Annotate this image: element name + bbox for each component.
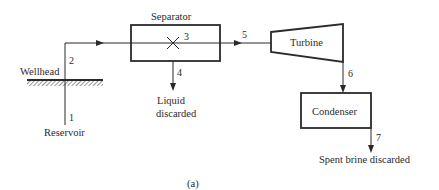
- state-6-label: 6: [348, 68, 353, 79]
- state-2-label: 2: [69, 55, 74, 66]
- down-arrow-icon: [340, 85, 346, 93]
- separator-label: Separator: [151, 11, 192, 22]
- liquid-discarded-label-1: Liquid: [157, 95, 186, 106]
- spent-brine-label: Spent brine discarded: [319, 154, 411, 165]
- down-arrow-icon: [368, 145, 374, 153]
- reservoir-label: Reservoir: [44, 127, 85, 138]
- wellhead-label: Wellhead: [20, 66, 60, 77]
- state-7-label: 7: [376, 132, 381, 143]
- geothermal-flash-plant-diagram: Wellhead 1 2 Reservoir Separator 3 4 Liq…: [0, 0, 439, 190]
- condenser-label: Condenser: [312, 106, 357, 117]
- flow-arrow-icon: [96, 40, 104, 46]
- liquid-discarded-label-2: discarded: [156, 108, 197, 119]
- state-5-label: 5: [242, 29, 247, 40]
- down-arrow-icon: [170, 83, 176, 91]
- turbine-label: Turbine: [290, 37, 323, 48]
- state-3-label: 3: [184, 31, 189, 42]
- state-1-label: 1: [69, 112, 74, 123]
- figure-caption: (a): [187, 178, 199, 190]
- flow-arrow-icon: [234, 40, 242, 46]
- state-4-label: 4: [177, 67, 182, 78]
